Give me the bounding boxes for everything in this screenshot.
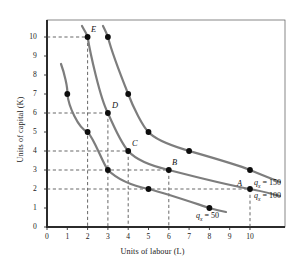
point-label-b: B	[172, 158, 177, 167]
curve-label-q150: qx = 150	[254, 178, 281, 189]
curve-label-subscript: x	[200, 216, 202, 222]
point-label-a: A	[237, 179, 242, 188]
data-point-d	[105, 110, 111, 116]
x-tick-label-3: 3	[102, 232, 114, 241]
curve-label-subscript: x	[258, 196, 260, 202]
y-tick-label-3: 3	[29, 165, 41, 174]
data-point	[105, 34, 111, 40]
data-point-b	[166, 167, 172, 173]
data-point	[125, 91, 131, 97]
x-tick-label-10: 10	[244, 232, 256, 241]
data-point-a	[247, 186, 253, 192]
curve-label-value-50: 50	[211, 211, 219, 220]
isoquant-chart-figure: 0 1 2 3 4 5 6 7 8 9 10 0 1 2 3 4 5 6 7 8…	[0, 0, 305, 270]
x-tick-label-4: 4	[122, 232, 134, 241]
x-tick-label-2: 2	[82, 232, 94, 241]
curve-label-equals: =	[262, 191, 267, 200]
plot-frame	[47, 20, 285, 227]
point-label-c: C	[132, 139, 138, 148]
data-point	[85, 129, 91, 135]
y-tick-label-4: 4	[29, 146, 41, 155]
y-axis-title: Units of capital (K)	[16, 60, 25, 200]
x-tick-label-0: 0	[41, 232, 53, 241]
data-point	[146, 129, 152, 135]
y-tick-label-10: 10	[25, 32, 41, 41]
data-point	[146, 186, 152, 192]
curve-label-value-100: 100	[269, 191, 281, 200]
curve-label-equals: =	[262, 178, 267, 187]
curve-label-q50: qx = 50	[196, 211, 219, 222]
y-tick-label-8: 8	[29, 70, 41, 79]
data-point-c	[125, 148, 131, 154]
y-tick-label-1: 1	[29, 203, 41, 212]
isoquant-plot-svg	[0, 0, 305, 270]
curve-label-subscript: x	[258, 183, 260, 189]
curve-label-q100: qx = 100	[254, 191, 281, 202]
x-tick-label-8: 8	[203, 232, 215, 241]
x-axis-title: Units of labour (L)	[0, 247, 305, 256]
x-tick-label-1: 1	[61, 232, 73, 241]
curve-label-value-150: 150	[269, 178, 281, 187]
x-tick-label-5: 5	[143, 232, 155, 241]
y-tick-label-0: 0	[29, 222, 41, 231]
y-tick-label-6: 6	[29, 108, 41, 117]
data-point	[64, 91, 70, 97]
point-label-d: D	[112, 101, 118, 110]
data-point	[105, 167, 111, 173]
y-tick-label-9: 9	[29, 51, 41, 60]
point-label-e: E	[91, 25, 96, 34]
x-tick-label-9: 9	[224, 232, 236, 241]
y-tick-label-7: 7	[29, 89, 41, 98]
curve-label-equals: =	[204, 211, 209, 220]
y-tick-label-2: 2	[29, 184, 41, 193]
data-point-e	[85, 34, 91, 40]
x-tick-label-6: 6	[163, 232, 175, 241]
x-tick-label-7: 7	[183, 232, 195, 241]
data-point	[247, 167, 253, 173]
y-tick-label-5: 5	[29, 127, 41, 136]
data-point	[186, 148, 192, 154]
